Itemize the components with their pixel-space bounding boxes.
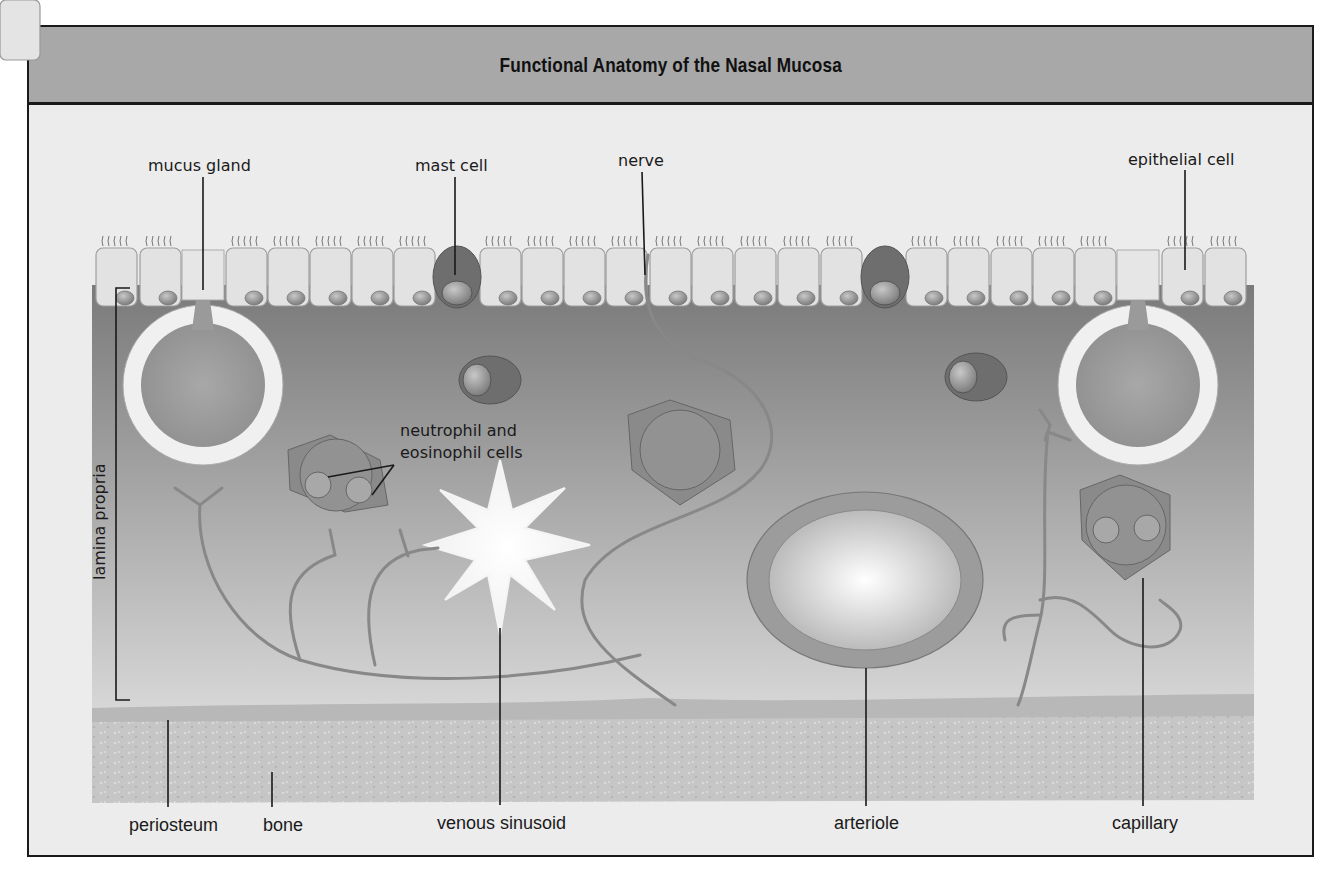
label-neutrophil-line2: eosinophil cells: [400, 443, 522, 462]
bone-layer: [92, 716, 1254, 803]
label-periosteum: periosteum: [129, 815, 218, 836]
epithelium-row: [0, 0, 40, 60]
mast-cell-epithelium-left: [433, 246, 481, 308]
label-bone: bone: [263, 815, 303, 836]
epithelial-cells: [96, 236, 1246, 306]
label-epithelial-cell: epithelial cell: [1128, 150, 1234, 169]
mast-cell-free-right: [945, 353, 1007, 401]
label-venous-sinusoid: venous sinusoid: [437, 813, 566, 834]
label-capillary: capillary: [1112, 813, 1178, 834]
mast-cell-free-left: [459, 356, 521, 404]
label-mast-cell: mast cell: [415, 156, 488, 175]
label-mucus-gland: mucus gland: [148, 156, 251, 175]
arteriole-shape: [747, 492, 983, 668]
label-nerve: nerve: [618, 151, 664, 170]
mast-cell-epithelium-right: [861, 246, 909, 308]
label-lamina-propria: lamina propria: [90, 464, 109, 580]
label-arteriole: arteriole: [834, 813, 899, 834]
nasal-mucosa-illustration: [0, 0, 1339, 881]
label-neutrophil-line1: neutrophil and: [400, 421, 517, 440]
